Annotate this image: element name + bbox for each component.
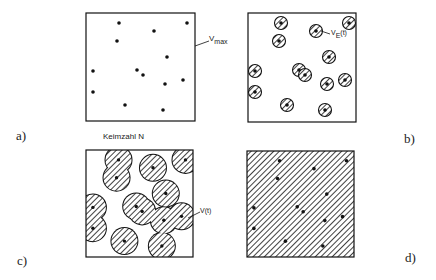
- panel-d-label: d): [405, 250, 416, 266]
- panel-a-nuclei: [91, 21, 189, 112]
- panel-d: [247, 151, 354, 257]
- panel-c-label: c): [17, 253, 27, 269]
- panel-b-label: b): [404, 131, 415, 147]
- panel-a-label: a): [16, 128, 26, 144]
- panel-d-box: [247, 151, 354, 257]
- panel-a-caption: Keimzahl N: [103, 132, 144, 141]
- panel-c-grown-regions: [79, 146, 200, 260]
- vmax-leader-line: [195, 41, 209, 46]
- vmax-label: Vmax: [209, 34, 228, 43]
- panel-a: [86, 13, 209, 121]
- vt-label: V(t): [200, 207, 211, 214]
- panel-c: [79, 146, 200, 260]
- ve-label: VE(t): [331, 29, 347, 36]
- panel-a-box: [86, 13, 195, 121]
